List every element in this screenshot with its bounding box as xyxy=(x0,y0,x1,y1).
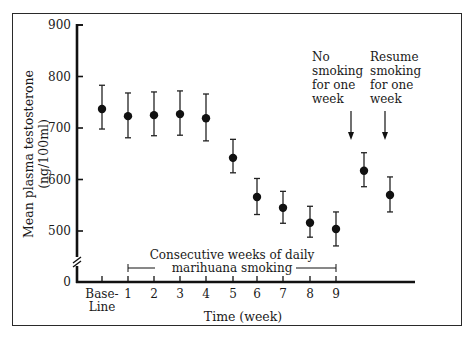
data-point xyxy=(202,94,210,141)
x-axis-title: Time (week) xyxy=(204,309,282,324)
data-points xyxy=(98,85,394,246)
no-smoking-annotation: No smoking for one week xyxy=(312,50,364,140)
svg-text:smoking: smoking xyxy=(370,64,422,78)
svg-text:week: week xyxy=(370,92,402,106)
data-point xyxy=(360,153,368,187)
data-point xyxy=(98,85,106,129)
svg-text:Mean plasma testosterone: Mean plasma testosterone xyxy=(21,70,36,238)
x-tick-label: 4 xyxy=(202,287,210,301)
x-tick-label: 8 xyxy=(306,287,314,301)
y-tick-label: 600 xyxy=(48,173,71,187)
consecutive-weeks-annotation: Consecutive weeks of daily marihuana smo… xyxy=(128,248,336,275)
svg-text:Consecutive weeks of daily: Consecutive weeks of daily xyxy=(150,248,315,262)
y-axis-title: Mean plasma testosterone (ng/100ml) xyxy=(21,70,51,238)
x-tick-label: 6 xyxy=(253,287,261,301)
x-tick-label: 3 xyxy=(176,287,184,301)
svg-text:Resume: Resume xyxy=(370,50,419,64)
x-tick-label: 7 xyxy=(279,287,287,301)
x-tick-label: 5 xyxy=(229,287,237,301)
axis-break-icon xyxy=(73,257,81,267)
svg-text:marihuana smoking: marihuana smoking xyxy=(172,261,293,275)
data-point xyxy=(124,93,132,138)
y-axis xyxy=(73,24,83,283)
data-point xyxy=(306,206,314,237)
svg-text:for one: for one xyxy=(312,78,355,92)
svg-text:for one: for one xyxy=(370,78,413,92)
arrow-down-icon xyxy=(348,111,354,140)
data-point xyxy=(150,92,158,136)
data-point xyxy=(176,91,184,135)
arrow-down-icon xyxy=(382,111,388,140)
svg-text:week: week xyxy=(312,92,344,106)
data-point xyxy=(279,191,287,223)
data-point xyxy=(332,212,340,246)
y-tick-label: 0 xyxy=(63,275,71,289)
svg-text:smoking: smoking xyxy=(312,64,364,78)
data-point xyxy=(386,177,394,212)
x-tick-label: 9 xyxy=(332,287,340,301)
data-point xyxy=(229,139,237,172)
x-tick-label: 1 xyxy=(124,287,132,301)
x-tick-label: Base- xyxy=(85,287,118,301)
x-tick-label: Line xyxy=(89,300,116,314)
y-tick-label: 900 xyxy=(48,18,71,32)
x-tick-label: 2 xyxy=(150,287,158,301)
y-tick-label: 800 xyxy=(48,70,71,84)
y-tick-label: 500 xyxy=(48,224,71,238)
y-tick-label: 700 xyxy=(48,121,71,135)
svg-text:No: No xyxy=(312,50,330,64)
resume-smoking-annotation: Resume smoking for one week xyxy=(370,50,422,140)
chart: Mean plasma testosterone (ng/100ml) 0500… xyxy=(0,0,476,343)
data-point xyxy=(253,178,261,214)
